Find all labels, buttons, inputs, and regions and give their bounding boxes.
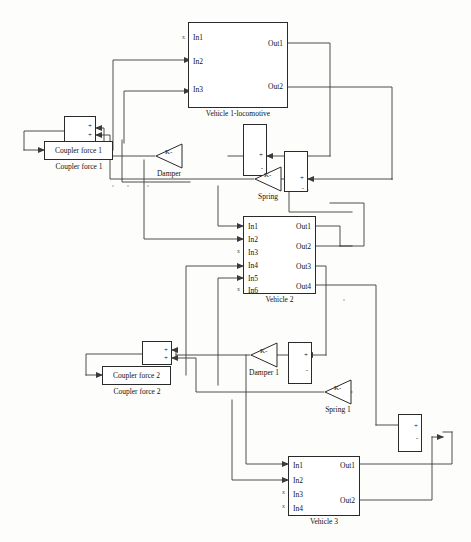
wire-sumspring-low bbox=[289, 190, 352, 212]
subsystem-vehicle2[interactable]: In1 In2 In3 In4 In5 In6 Out1 Out2 Out3 O… bbox=[243, 216, 316, 294]
wire-v2out1-a bbox=[316, 226, 340, 246]
port-vehicle3-out2: Out2 bbox=[340, 497, 355, 505]
gain-label-spring1: Spring 1 bbox=[316, 406, 360, 414]
sum-sign-damper1-1: + bbox=[304, 352, 308, 359]
caption-coupler-force-2: Coupler force 2 bbox=[98, 388, 176, 396]
wire-to-v2in1 bbox=[218, 186, 243, 226]
port-vehicle2-in2: In2 bbox=[248, 236, 258, 244]
sum-block-coupler2[interactable]: + + bbox=[142, 341, 172, 365]
sum-sign-damper-1: + bbox=[259, 152, 263, 159]
unconnected-marker-vehicle3-in4: x bbox=[282, 503, 285, 509]
wire-v2out3-a bbox=[316, 266, 326, 355]
sum-sign-spring-1: + bbox=[300, 175, 304, 182]
gain-block-spring1[interactable]: K- bbox=[324, 379, 352, 405]
sum-sign-damper1-2: - bbox=[306, 367, 308, 374]
port-vehicle2-in1: In1 bbox=[248, 223, 258, 231]
subsystem-vehicle1[interactable]: In1 In2 In3 Out1 Out2 bbox=[188, 22, 288, 108]
sum-sign-spring-2: - bbox=[302, 185, 304, 192]
caption-coupler-force-1: Coupler force 1 bbox=[40, 163, 118, 171]
gain-value-damper1: K- bbox=[260, 348, 267, 355]
port-vehicle3-in2: In2 bbox=[293, 477, 303, 485]
unconnected-marker-vehicle2-in6: x bbox=[237, 286, 240, 292]
port-vehicle3-in1: In1 bbox=[293, 462, 303, 470]
caption-vehicle3: Vehicle 3 bbox=[288, 518, 360, 526]
sum-sign-coupler1-1: + bbox=[88, 123, 92, 130]
gain-label-damper1: Damper 1 bbox=[242, 369, 286, 377]
wire-damper1-to-sum2-top bbox=[172, 350, 176, 355]
gain-value-spring1: K- bbox=[334, 385, 341, 392]
port-vehicle2-in3: In3 bbox=[248, 249, 258, 257]
wire-coupler1-to-v1in2 bbox=[113, 60, 190, 150]
gain-value-spring: K- bbox=[264, 172, 271, 179]
port-vehicle3-out1: Out1 bbox=[340, 462, 355, 470]
block-coupler-force-1[interactable]: Coupler force 1 bbox=[44, 141, 113, 160]
unconnected-marker-vehicle3-in3: x bbox=[282, 489, 285, 495]
gain-block-damper[interactable]: K- bbox=[155, 143, 183, 169]
sum-block-spring1[interactable]: + - bbox=[398, 414, 422, 452]
port-vehicle2-out2: Out2 bbox=[296, 243, 311, 251]
sum-sign-coupler1-2: + bbox=[88, 132, 92, 139]
wire-to-v1in3 bbox=[124, 91, 190, 143]
subsystem-vehicle3[interactable]: In1 In2 In3 In4 Out1 Out2 bbox=[288, 456, 360, 516]
port-vehicle2-out3: Out3 bbox=[296, 263, 311, 271]
port-vehicle2-in4: In4 bbox=[248, 262, 258, 270]
block-diagram-canvas: In1 In2 In3 Out1 Out2 x Vehicle 1-locomo… bbox=[0, 0, 471, 542]
port-vehicle1-in2: In2 bbox=[193, 58, 203, 66]
port-vehicle2-in6: In6 bbox=[248, 287, 258, 295]
port-vehicle2-out4: Out4 bbox=[296, 283, 311, 291]
port-vehicle3-in3: In3 bbox=[293, 491, 303, 499]
gain-label-spring: Spring bbox=[248, 193, 288, 201]
sum-sign-spring1-2: - bbox=[416, 435, 418, 442]
caption-vehicle1: Vehicle 1-locomotive bbox=[188, 110, 288, 118]
gain-block-spring[interactable]: K- bbox=[254, 166, 282, 192]
port-vehicle3-in4: In4 bbox=[293, 505, 303, 513]
sum-sign-coupler2-2: + bbox=[164, 355, 168, 362]
port-vehicle1-out1: Out1 bbox=[268, 40, 283, 48]
port-vehicle1-in3: In3 bbox=[193, 86, 203, 94]
sum-sign-spring1-1: + bbox=[414, 423, 418, 430]
port-vehicle1-in1: In1 bbox=[193, 34, 203, 42]
port-vehicle2-in5: In5 bbox=[248, 275, 258, 283]
sum-block-damper1[interactable]: + - bbox=[288, 342, 312, 384]
block-coupler-force-2[interactable]: Coupler force 2 bbox=[102, 366, 171, 385]
caption-vehicle2: Vehicle 2 bbox=[243, 296, 316, 304]
unconnected-marker-vehicle2-in3: x bbox=[237, 248, 240, 254]
sum-block-spring[interactable]: + - bbox=[284, 151, 308, 192]
wire-to-v3in2 bbox=[232, 400, 288, 480]
port-vehicle1-out2: Out2 bbox=[268, 83, 283, 91]
sum-sign-coupler2-1: + bbox=[164, 347, 168, 354]
wire-v1out1-a bbox=[288, 43, 330, 156]
sum-block-coupler1[interactable]: + + bbox=[64, 116, 96, 142]
unconnected-marker-vehicle1-in1: x bbox=[182, 34, 185, 40]
gain-label-damper: Damper bbox=[149, 170, 189, 178]
gain-block-damper1[interactable]: K- bbox=[250, 342, 278, 368]
wire-v2out2-a bbox=[316, 203, 364, 246]
wire-coupler2-to-v2in4 bbox=[186, 266, 243, 375]
port-vehicle2-out1: Out1 bbox=[296, 223, 311, 231]
wire-coupler2-to-v2in5 bbox=[218, 278, 243, 385]
gain-value-damper: K- bbox=[165, 149, 172, 156]
